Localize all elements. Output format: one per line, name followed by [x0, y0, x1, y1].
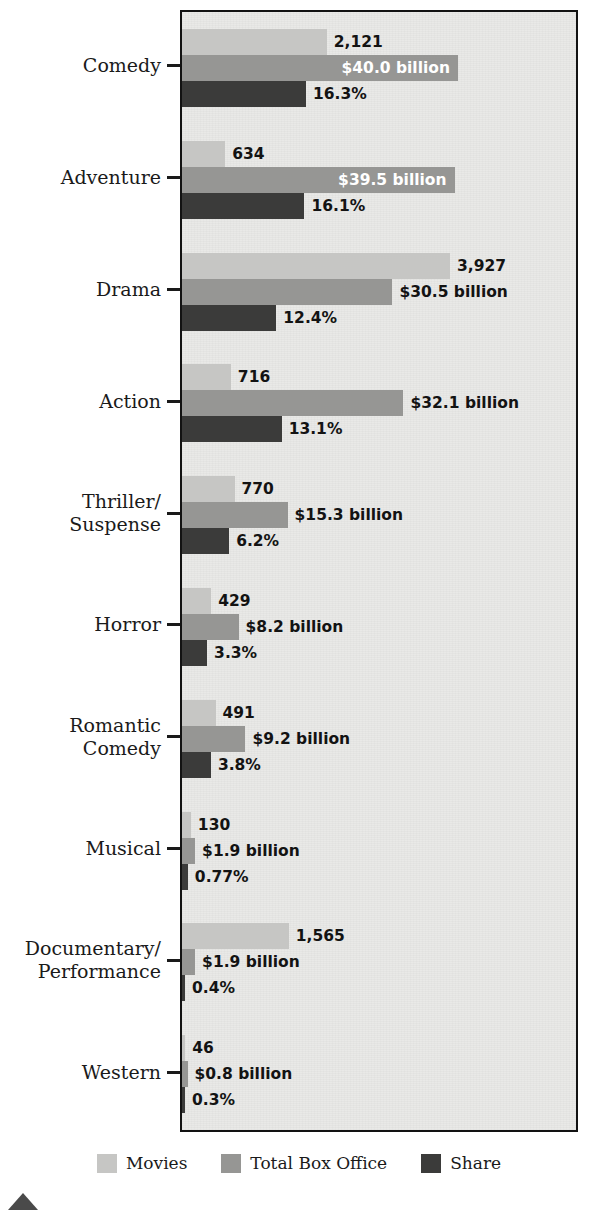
- chart-legend: MoviesTotal Box OfficeShare: [0, 1146, 598, 1180]
- bar-value-label: $30.5 billion: [399, 279, 507, 305]
- bar-total-box-office: [182, 390, 403, 416]
- bar-value-label: $32.1 billion: [410, 390, 518, 416]
- bar-value-label: 6.2%: [236, 528, 279, 554]
- bar-value-label: 2,121: [334, 29, 383, 55]
- category-label-adventure: Adventure: [0, 166, 161, 189]
- bar-movies: [182, 364, 231, 390]
- category-label-musical: Musical: [0, 837, 161, 860]
- bar-value-label: $40.0 billion: [342, 55, 450, 81]
- legend-swatch-icon: [221, 1154, 241, 1173]
- axis-tick: [167, 176, 180, 179]
- bar-group: 716$32.1 billion13.1%: [182, 364, 576, 442]
- legend-item-total-box-office[interactable]: Total Box Office: [221, 1153, 387, 1173]
- bar-value-label: 3.3%: [214, 640, 257, 666]
- bar-share: [182, 640, 207, 666]
- legend-item-movies[interactable]: Movies: [97, 1153, 187, 1173]
- bar-movies: [182, 923, 289, 949]
- bar-movies: [182, 812, 191, 838]
- legend-swatch-icon: [421, 1154, 441, 1173]
- axis-tick: [167, 623, 180, 626]
- bar-total-box-office: [182, 838, 195, 864]
- bar-movies: [182, 141, 225, 167]
- bar-total-box-office: [182, 726, 245, 752]
- bar-movies: [182, 1035, 185, 1061]
- bar-value-label: 3.8%: [218, 752, 261, 778]
- bar-group: 3,927$30.5 billion12.4%: [182, 253, 576, 331]
- bar-value-label: 0.77%: [195, 864, 249, 890]
- bar-share: [182, 416, 282, 442]
- bar-value-label: 16.3%: [313, 81, 367, 107]
- category-label-horror: Horror: [0, 613, 161, 636]
- bar-value-label: 1,565: [296, 923, 345, 949]
- bar-share: [182, 752, 211, 778]
- bar-value-label: 0.3%: [192, 1087, 235, 1113]
- legend-label: Total Box Office: [250, 1153, 387, 1173]
- bar-value-label: 491: [223, 700, 255, 726]
- category-label-thriller-suspense: Thriller/ Suspense: [0, 490, 161, 536]
- category-label-action: Action: [0, 390, 161, 413]
- bar-share: [182, 975, 185, 1001]
- bar-value-label: 46: [192, 1035, 214, 1061]
- bar-value-label: 429: [218, 588, 250, 614]
- bar-group: 2,121$40.0 billion16.3%: [182, 29, 576, 107]
- category-label-western: Western: [0, 1061, 161, 1084]
- bar-share: [182, 864, 188, 890]
- legend-swatch-icon: [97, 1154, 117, 1173]
- bar-group: 46$0.8 billion0.3%: [182, 1035, 576, 1113]
- bar-share: [182, 1087, 185, 1113]
- bar-value-label: $8.2 billion: [246, 614, 344, 640]
- bar-value-label: 770: [242, 476, 274, 502]
- bar-group: 634$39.5 billion16.1%: [182, 141, 576, 219]
- bar-total-box-office: [182, 1061, 188, 1087]
- bar-value-label: $15.3 billion: [295, 502, 403, 528]
- axis-tick: [167, 288, 180, 291]
- bar-total-box-office: [182, 279, 392, 305]
- bar-value-label: 716: [238, 364, 270, 390]
- category-label-documentary-performance: Documentary/ Performance: [0, 937, 161, 983]
- bar-value-label: $0.8 billion: [195, 1061, 293, 1087]
- bar-value-label: 16.1%: [311, 193, 365, 219]
- axis-tick: [167, 735, 180, 738]
- bar-value-label: 12.4%: [283, 305, 337, 331]
- bar-value-label: 0.4%: [192, 975, 235, 1001]
- bar-value-label: $1.9 billion: [202, 949, 300, 975]
- bar-group: 429$8.2 billion3.3%: [182, 588, 576, 666]
- bar-group: 130$1.9 billion0.77%: [182, 812, 576, 890]
- legend-label: Movies: [126, 1153, 187, 1173]
- bar-movies: [182, 476, 235, 502]
- category-label-drama: Drama: [0, 278, 161, 301]
- bar-movies: [182, 253, 450, 279]
- plot-area: 2,121$40.0 billion16.3%634$39.5 billion1…: [180, 10, 578, 1132]
- bar-value-label: 634: [232, 141, 264, 167]
- bar-movies: [182, 29, 327, 55]
- bar-total-box-office: [182, 949, 195, 975]
- bar-groups: 2,121$40.0 billion16.3%634$39.5 billion1…: [182, 12, 576, 1130]
- bar-group: 770$15.3 billion6.2%: [182, 476, 576, 554]
- corner-triangle-marker: [8, 1193, 38, 1210]
- bar-movies: [182, 588, 211, 614]
- bar-value-label: $39.5 billion: [338, 167, 446, 193]
- bar-value-label: $1.9 billion: [202, 838, 300, 864]
- bar-value-label: 3,927: [457, 253, 506, 279]
- bar-share: [182, 81, 306, 107]
- bar-share: [182, 305, 276, 331]
- axis-tick: [167, 847, 180, 850]
- legend-item-share[interactable]: Share: [421, 1153, 501, 1173]
- axis-tick: [167, 64, 180, 67]
- axis-tick: [167, 400, 180, 403]
- bar-group: 1,565$1.9 billion0.4%: [182, 923, 576, 1001]
- axis-tick: [167, 512, 180, 515]
- axis-tick: [167, 1071, 180, 1074]
- category-label-romantic-comedy: Romantic Comedy: [0, 714, 161, 760]
- bar-group: 491$9.2 billion3.8%: [182, 700, 576, 778]
- bar-total-box-office: [182, 502, 288, 528]
- bar-value-label: 13.1%: [289, 416, 343, 442]
- bar-movies: [182, 700, 216, 726]
- bar-share: [182, 193, 304, 219]
- bar-value-label: $9.2 billion: [252, 726, 350, 752]
- axis-tick: [167, 959, 180, 962]
- bar-value-label: 130: [198, 812, 230, 838]
- bar-share: [182, 528, 229, 554]
- category-label-comedy: Comedy: [0, 54, 161, 77]
